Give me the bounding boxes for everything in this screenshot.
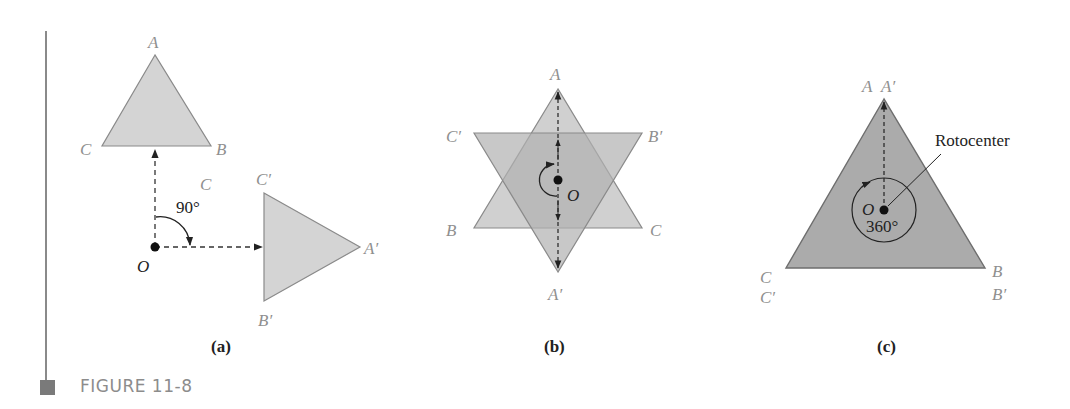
- vertex-label-b: B: [216, 140, 227, 159]
- vertex-label-c: C: [650, 221, 662, 240]
- vertex-label-a: A: [147, 33, 159, 52]
- vertex-label-a-prime: A′: [880, 77, 895, 96]
- vertex-label-b-prime: B′: [648, 127, 662, 146]
- vertex-label-b-prime: B′: [258, 311, 272, 330]
- vertex-label-a-prime: A′: [363, 239, 378, 258]
- rotocenter-annotation: Rotocenter: [935, 131, 1010, 150]
- angle-label: 90°: [176, 198, 200, 217]
- panel-caption-a: (a): [211, 337, 231, 356]
- triangle-original: [102, 55, 211, 146]
- stray-label-c: C: [200, 175, 212, 194]
- center-label-o: O: [567, 186, 579, 205]
- panel-b: O A B C C′ B′ A′ (b): [446, 65, 662, 356]
- vertex-label-b: B: [992, 262, 1003, 281]
- panel-c: Rotocenter O 360° A A′ C C′ B B′ (c): [760, 77, 1010, 356]
- vertex-label-a: A: [861, 77, 873, 96]
- center-point-o: [151, 243, 160, 252]
- vertex-label-b: B: [446, 221, 457, 240]
- vertex-label-c-prime: C′: [446, 127, 461, 146]
- vertex-label-c: C: [760, 268, 772, 287]
- rotation-arc-90: [156, 217, 190, 245]
- vertex-label-a-prime: A′: [547, 285, 562, 304]
- vertex-label-c-prime: C′: [760, 288, 775, 307]
- triangle-image: [264, 193, 360, 301]
- panel-caption-c: (c): [877, 337, 896, 356]
- center-label-o: O: [137, 257, 149, 276]
- figure-canvas: A C B O 90° C C′ A′ B′ (a) O A B C C′ B′…: [0, 0, 1070, 409]
- panel-caption-b: (b): [544, 337, 565, 356]
- vertex-label-a: A: [549, 65, 561, 84]
- vertex-label-c-prime: C′: [256, 170, 271, 189]
- center-point-o: [880, 206, 889, 215]
- angle-label: 360°: [866, 217, 898, 236]
- vertex-label-c: C: [80, 140, 92, 159]
- center-point-o: [554, 176, 563, 185]
- triangle-original-and-image: [786, 99, 985, 268]
- panel-a: A C B O 90° C C′ A′ B′ (a): [80, 33, 378, 356]
- vertex-label-b-prime: B′: [992, 285, 1006, 304]
